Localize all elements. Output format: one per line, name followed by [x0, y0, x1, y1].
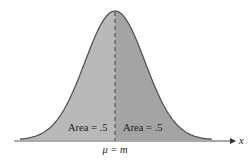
left-half-area [20, 11, 115, 140]
normal-curve-diagram: x Area = .5 Area = .5 μ = m [0, 0, 251, 160]
left-area-label: Area = .5 [68, 122, 107, 133]
right-half-area [115, 11, 212, 140]
right-area-label: Area = .5 [123, 122, 162, 133]
x-axis-arrow-icon [230, 138, 236, 144]
x-axis-label: x [238, 135, 244, 146]
mean-label: μ = m [101, 144, 128, 155]
